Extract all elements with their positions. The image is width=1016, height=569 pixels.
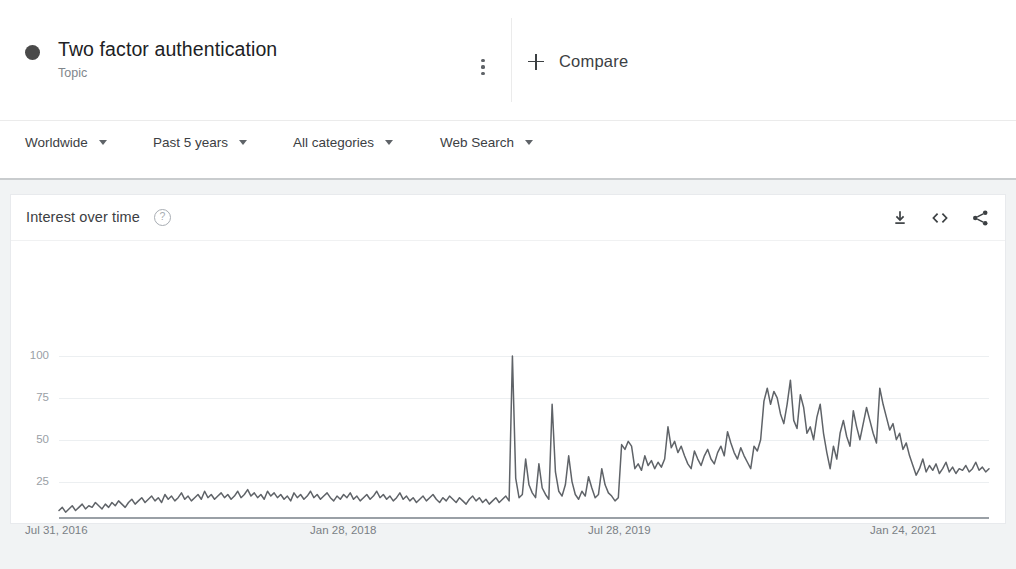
query-header: Two factor authentication Topic Compare <box>0 0 1016 121</box>
card-title: Interest over time <box>26 209 140 225</box>
plus-icon <box>528 54 544 70</box>
chevron-down-icon <box>99 140 107 145</box>
x-tick-label: Jul 31, 2016 <box>25 524 88 536</box>
chevron-down-icon <box>239 140 247 145</box>
page-title: Two factor authentication <box>58 36 277 62</box>
filter-category-label: All categories <box>293 135 374 150</box>
filter-bar: Worldwide Past 5 years All categories We… <box>0 121 1016 180</box>
kebab-dot <box>481 65 484 68</box>
series-color-dot <box>25 45 40 60</box>
help-icon[interactable]: ? <box>154 209 171 226</box>
filter-location[interactable]: Worldwide <box>25 135 107 150</box>
add-compare-button[interactable]: Compare <box>528 52 628 71</box>
interest-over-time-line[interactable] <box>11 241 1016 525</box>
interest-over-time-card: Interest over time ? <box>10 194 1006 524</box>
x-tick-label: Jul 28, 2019 <box>588 524 651 536</box>
kebab-dot <box>481 72 484 75</box>
kebab-dot <box>481 59 484 62</box>
embed-icon[interactable] <box>928 206 952 230</box>
filter-location-label: Worldwide <box>25 135 88 150</box>
query-entry: Two factor authentication Topic <box>0 36 277 82</box>
share-icon[interactable] <box>968 206 992 230</box>
query-type-label: Topic <box>58 64 277 82</box>
filter-category[interactable]: All categories <box>293 135 393 150</box>
filter-time-range[interactable]: Past 5 years <box>153 135 247 150</box>
filter-search-type-label: Web Search <box>440 135 514 150</box>
download-icon[interactable] <box>888 206 912 230</box>
more-options-icon[interactable] <box>473 50 493 84</box>
plot-area: 100 75 50 25 Jul 31, 2016 Jan 28, 2018 J… <box>11 241 1005 525</box>
x-axis-baseline <box>59 517 989 519</box>
header-divider <box>511 18 512 102</box>
filter-time-range-label: Past 5 years <box>153 135 228 150</box>
compare-label: Compare <box>559 52 628 71</box>
x-tick-label: Jan 28, 2018 <box>310 524 377 536</box>
page-body: Interest over time ? <box>0 180 1016 569</box>
chevron-down-icon <box>525 140 533 145</box>
card-header: Interest over time ? <box>11 195 1005 241</box>
filter-search-type[interactable]: Web Search <box>440 135 533 150</box>
x-tick-label: Jan 24, 2021 <box>870 524 937 536</box>
chevron-down-icon <box>385 140 393 145</box>
card-actions <box>888 206 992 230</box>
